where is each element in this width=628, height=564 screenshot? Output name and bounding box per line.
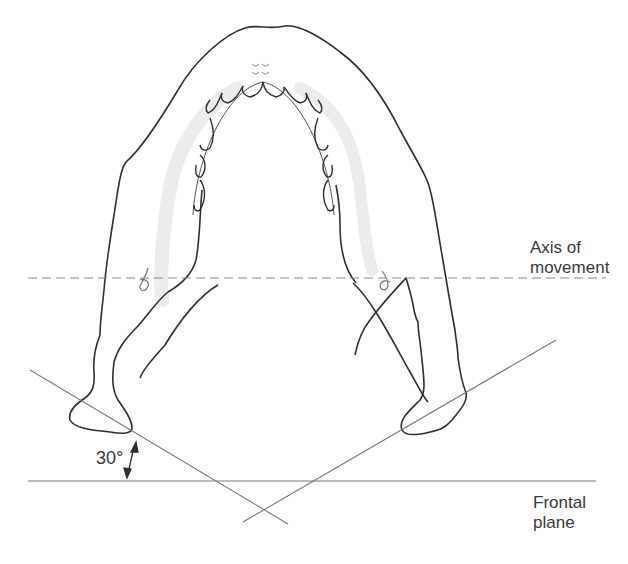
mandible-diagram xyxy=(0,0,628,564)
bone-shading-right xyxy=(300,88,372,270)
axis-of-movement-label: Axis of movement xyxy=(530,238,609,278)
left-condyle-axis-line xyxy=(30,370,288,524)
frontal-plane-label: Frontal plane xyxy=(533,493,586,533)
right-foramen-mark xyxy=(380,271,390,290)
frontal-label-line2: plane xyxy=(533,513,586,533)
left-foramen-mark xyxy=(140,268,148,291)
axis-label-line2: movement xyxy=(530,258,609,278)
mandible-inner-right xyxy=(353,283,428,402)
right-condyle-axis-line xyxy=(243,340,556,522)
angle-arrow-icon xyxy=(124,442,138,478)
frontal-label-line1: Frontal xyxy=(533,493,586,513)
mandible-inner-left xyxy=(140,285,218,378)
mandible-outline xyxy=(178,26,466,435)
axis-label-line1: Axis of xyxy=(530,238,609,258)
bone-shading-left xyxy=(161,88,238,300)
mandible-right-inner xyxy=(336,185,356,283)
angle-label: 30° xyxy=(96,448,123,468)
mental-foramen-marks xyxy=(252,64,269,74)
